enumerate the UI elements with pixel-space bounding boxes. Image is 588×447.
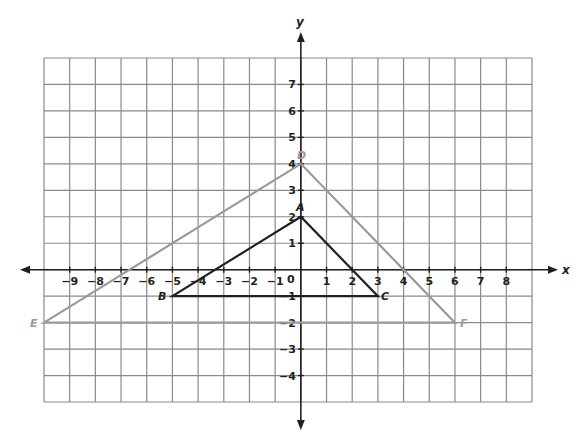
y-tick-label: 1: [288, 237, 296, 250]
y-axis-down-arrow-icon: [297, 420, 305, 430]
origin-label: 0: [287, 273, 295, 286]
vertex-label-c: C: [381, 290, 389, 303]
y-tick-label: 3: [288, 184, 296, 197]
y-tick-label: 6: [288, 105, 296, 118]
x-tick-label: 4: [400, 275, 408, 288]
vertex-label-b: B: [158, 290, 166, 303]
y-axis-up-arrow-icon: [297, 32, 305, 42]
vertex-label-f: F: [460, 317, 468, 330]
x-tick-label: −8: [87, 275, 104, 288]
x-tick-label: 2: [348, 275, 356, 288]
x-tick-label: 5: [425, 275, 433, 288]
x-axis-left-arrow-icon: [20, 266, 30, 274]
y-tick-label: 7: [288, 78, 296, 91]
y-tick-label: −3: [279, 343, 296, 356]
coordinate-plane: −9−8−7−6−5−4−3−2−1123456787654321−1−2−3−…: [0, 0, 588, 447]
vertex-label-a: A: [295, 201, 305, 214]
y-axis-label: y: [296, 15, 305, 29]
x-tick-label: 8: [502, 275, 510, 288]
x-tick-label: 7: [477, 275, 485, 288]
x-tick-label: 3: [374, 275, 382, 288]
x-tick-label: −5: [164, 275, 181, 288]
x-tick-label: −3: [215, 275, 232, 288]
y-tick-label: −4: [279, 370, 296, 383]
x-tick-label: −9: [61, 275, 78, 288]
x-tick-label: −2: [241, 275, 258, 288]
x-tick-label: 1: [323, 275, 331, 288]
tick-labels: −9−8−7−6−5−4−3−2−1123456787654321−1−2−3−…: [61, 78, 510, 382]
x-axis-label: x: [561, 263, 571, 277]
x-tick-label: −1: [267, 275, 284, 288]
vertex-label-e: E: [30, 317, 38, 330]
vertex-label-d: D: [297, 149, 306, 162]
x-axis-right-arrow-icon: [548, 266, 558, 274]
y-tick-label: 5: [288, 131, 296, 144]
x-tick-label: 6: [451, 275, 459, 288]
x-tick-label: −7: [113, 275, 130, 288]
x-tick-label: −6: [138, 275, 155, 288]
